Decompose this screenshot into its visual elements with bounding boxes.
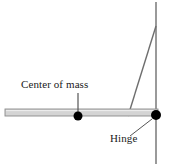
- center-of-mass-label: Center of mass: [21, 79, 88, 90]
- hinge-label: Hinge: [110, 133, 137, 144]
- center-of-mass-dot: [74, 112, 83, 121]
- physics-figure-diagram: Center of mass Hinge: [0, 0, 169, 166]
- hinge-dot: [151, 110, 161, 120]
- diagonal-cable-line: [128, 26, 156, 116]
